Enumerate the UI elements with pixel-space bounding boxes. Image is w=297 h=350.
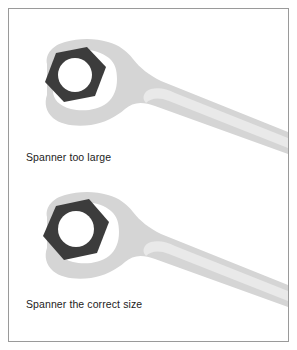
caption-spanner-too-large: Spanner too large xyxy=(26,151,111,163)
caption-spanner-correct-size: Spanner the correct size xyxy=(26,298,142,310)
handle-highlight-top xyxy=(144,88,288,148)
hex-nut-hole-bottom xyxy=(58,211,94,247)
figure-spanner-too-large xyxy=(9,14,288,164)
handle-highlight-bottom xyxy=(144,241,288,301)
figure-spanner-correct-size xyxy=(9,165,288,315)
hex-nut-hole-top xyxy=(58,58,92,92)
illustration-page: Spanner too large Spanner the correct si… xyxy=(0,0,297,350)
